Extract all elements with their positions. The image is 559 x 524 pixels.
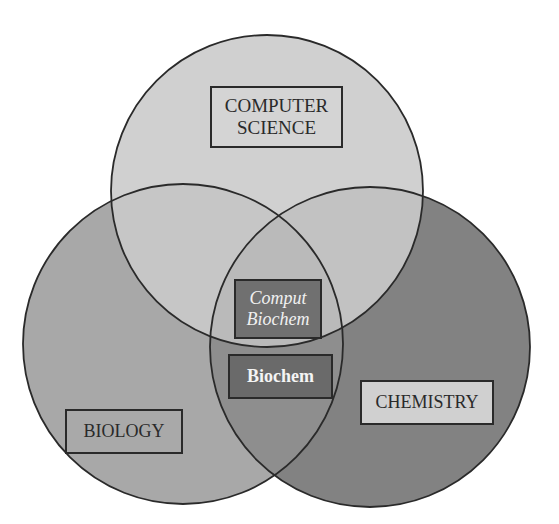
comput-biochem-line-1: Comput [249,288,306,309]
computational-biochemistry-label: Comput Biochem [234,279,322,339]
biochem-line-1: Biochem [247,366,314,387]
computer-science-label: COMPUTER SCIENCE [210,86,343,148]
comput-biochem-line-2: Biochem [247,309,310,330]
computer-science-label-line-1: COMPUTER [225,95,328,117]
chemistry-line-1: CHEMISTRY [375,392,478,413]
biology-label: BIOLOGY [65,409,183,454]
computer-science-label-line-2: SCIENCE [237,117,316,139]
venn-diagram: COMPUTER SCIENCE Comput Biochem Biochem … [0,0,559,524]
biology-line-1: BIOLOGY [84,421,165,442]
biochemistry-label: Biochem [228,354,333,399]
chemistry-label: CHEMISTRY [360,380,494,425]
